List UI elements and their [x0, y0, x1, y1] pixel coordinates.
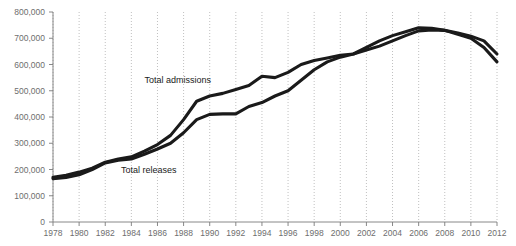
- y-axis-tick-label: 100,000: [14, 191, 45, 201]
- x-axis-tick-label: 1998: [305, 228, 324, 238]
- gridlines-group: [53, 12, 497, 222]
- y-axis-group: [49, 12, 53, 222]
- y-axis-tick-label: 500,000: [14, 86, 45, 96]
- x-axis-tick-label: 2012: [488, 228, 507, 238]
- x-axis-tick-label: 2004: [383, 228, 402, 238]
- x-axis-tick-label: 2010: [461, 228, 480, 238]
- y-axis-tick-label: 400,000: [14, 112, 45, 122]
- x-axis-tick-label: 1982: [96, 228, 115, 238]
- x-axis-tick-label: 1980: [70, 228, 89, 238]
- series-line-2: [53, 30, 497, 179]
- series-labels-group: Total admissionsTotal releases: [121, 75, 212, 176]
- y-axis-tick-label: 800,000: [14, 7, 45, 17]
- x-axis-tick-label: 1984: [122, 228, 141, 238]
- x-axis-group: [53, 222, 497, 226]
- x-axis-tick-label: 1996: [279, 228, 298, 238]
- y-axis-tick-label: 600,000: [14, 60, 45, 70]
- series-group: [53, 28, 497, 179]
- x-axis-tick-label: 1988: [174, 228, 193, 238]
- x-axis-tick-label: 1992: [226, 228, 245, 238]
- x-axis-tick-label: 2008: [435, 228, 454, 238]
- x-axis-tick-label: 1978: [44, 228, 63, 238]
- x-axis-tick-label: 1990: [200, 228, 219, 238]
- x-tick-labels-group: 1978198019821984198619881990199219941996…: [44, 228, 507, 238]
- chart-canvas: 0100,000200,000300,000400,000500,000600,…: [0, 0, 516, 246]
- x-axis-tick-label: 1994: [252, 228, 271, 238]
- y-axis-tick-label: 700,000: [14, 33, 45, 43]
- y-tick-labels-group: 0100,000200,000300,000400,000500,000600,…: [14, 7, 45, 227]
- x-axis-tick-label: 2002: [357, 228, 376, 238]
- series-line-1: [53, 28, 497, 178]
- line-chart: 0100,000200,000300,000400,000500,000600,…: [0, 0, 516, 246]
- x-axis-tick-label: 1986: [148, 228, 167, 238]
- x-axis-tick-label: 2006: [409, 228, 428, 238]
- y-axis-tick-label: 200,000: [14, 165, 45, 175]
- series-label-2: Total releases: [121, 165, 177, 175]
- series-label-1: Total admissions: [144, 75, 211, 85]
- x-axis-tick-label: 2000: [331, 228, 350, 238]
- y-axis-tick-label: 0: [40, 217, 45, 227]
- y-axis-tick-label: 300,000: [14, 138, 45, 148]
